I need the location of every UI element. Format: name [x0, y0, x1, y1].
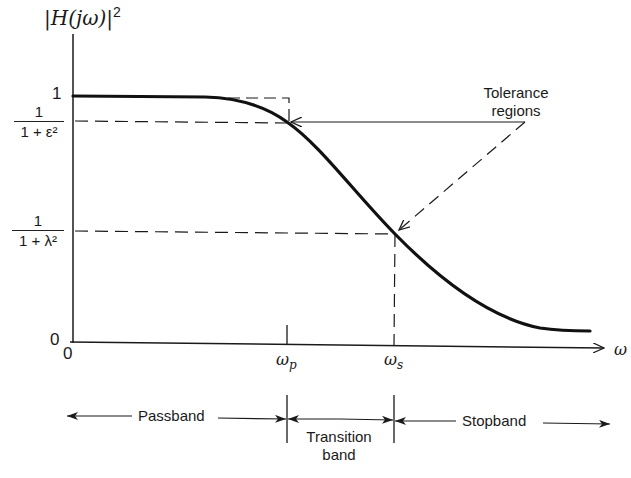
- transition-line1: Transition: [297, 428, 381, 446]
- passband-label: Passband: [138, 407, 205, 424]
- tolerance-annotation: Tolerance regions: [476, 84, 556, 120]
- transition-arrow-right: [340, 419, 393, 420]
- ws-symbol: ω: [384, 350, 397, 369]
- x-axis: [70, 342, 604, 348]
- x-tick-ws: ωs: [384, 350, 403, 372]
- y-tick-lambda-fraction: 1 1 + λ²: [12, 213, 64, 250]
- transition-band-label: Transition band: [297, 428, 381, 464]
- y-tick-one: 1: [52, 84, 61, 104]
- eps-denominator: 1 + ε²: [14, 123, 64, 141]
- transition-line2: band: [297, 446, 381, 464]
- wp-symbol: ω: [276, 350, 289, 369]
- tolerance-line2: regions: [476, 102, 556, 120]
- stopband-arrow-right: [543, 423, 610, 424]
- x-tick-zero: 0: [63, 344, 72, 364]
- lambda-fraction-bar: [12, 230, 64, 231]
- eps-fraction-bar: [14, 121, 64, 122]
- tolerance-arrow-bottom: [399, 122, 525, 230]
- filter-diagram: [0, 0, 631, 478]
- lambda-numerator: 1: [12, 213, 64, 229]
- y-tick-eps-fraction: 1 1 + ε²: [14, 104, 64, 141]
- response-curve: [73, 96, 590, 331]
- ws-subscript: s: [397, 358, 403, 372]
- lambda-denominator: 1 + λ²: [12, 232, 64, 250]
- y-axis-label-exponent: 2: [113, 4, 121, 20]
- eps-numerator: 1: [14, 104, 64, 120]
- tolerance-line1: Tolerance: [476, 84, 556, 102]
- y-tick-zero: 0: [50, 330, 59, 350]
- y-axis-label: |H(jω)|2: [44, 4, 121, 30]
- eps-level-dashed: [75, 121, 287, 123]
- passband-arrow-right: [218, 418, 286, 419]
- y-axis-label-main: |H(jω)|: [44, 6, 113, 30]
- lambda-level-dashed: [75, 231, 395, 234]
- x-tick-wp: ωp: [276, 350, 297, 372]
- ws-dashed: [394, 234, 395, 346]
- wp-subscript: p: [289, 358, 297, 372]
- stopband-label: Stopband: [462, 412, 526, 429]
- x-axis-label: ω: [614, 340, 627, 359]
